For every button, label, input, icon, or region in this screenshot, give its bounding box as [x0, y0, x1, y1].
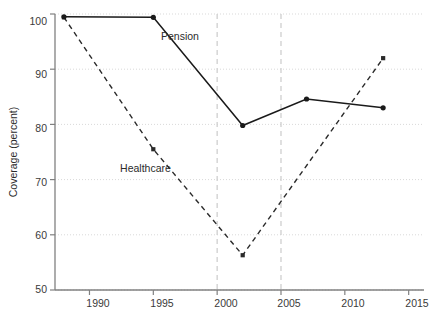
healthcare-marker — [241, 253, 245, 257]
pension-marker — [304, 96, 309, 101]
healthcare-marker — [151, 147, 155, 151]
healthcare-marker — [381, 56, 385, 60]
x-tick-label-1990: 1990 — [86, 297, 110, 309]
pension-marker — [61, 14, 66, 19]
y-tick-label-60: 60 — [35, 229, 47, 241]
y-tick-label-80: 80 — [35, 122, 47, 134]
x-tick-label-2000: 2000 — [214, 297, 238, 309]
y-tick-label-70: 70 — [35, 176, 47, 188]
y-tick-label-90: 90 — [35, 68, 47, 80]
pension-marker — [381, 105, 386, 110]
x-tick-label-2005: 2005 — [277, 297, 301, 309]
x-tick-label-1995: 1995 — [150, 297, 174, 309]
pension-marker — [151, 15, 156, 20]
y-tick-label-100: 100 — [29, 15, 47, 27]
line-chart: Coverage (percent) 100 90 80 70 60 50 19… — [0, 0, 431, 319]
chart-canvas: Coverage (percent) 100 90 80 70 60 50 19… — [0, 0, 431, 319]
chart-background — [0, 0, 431, 319]
y-tick-label-50: 50 — [35, 283, 47, 295]
x-tick-label-2015: 2015 — [405, 297, 429, 309]
x-tick-label-2010: 2010 — [341, 297, 365, 309]
y-axis-title: Coverage (percent) — [7, 107, 19, 197]
pension-marker — [240, 123, 245, 128]
pension-series-label: Pension — [161, 30, 199, 42]
healthcare-series-label: Healthcare — [120, 162, 171, 174]
